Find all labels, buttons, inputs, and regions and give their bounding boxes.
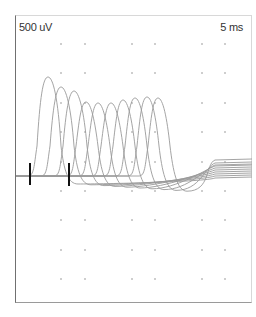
grid-dot (60, 102, 62, 104)
grid-dot (84, 72, 86, 74)
grid-dot (60, 43, 62, 45)
grid-dots (60, 43, 226, 280)
grid-dot (201, 102, 203, 104)
grid-dot (224, 72, 226, 74)
grid-dot (84, 249, 86, 251)
grid-dot (154, 278, 156, 280)
grid-dot (224, 190, 226, 192)
grid-dot (131, 43, 133, 45)
grid-dot (131, 249, 133, 251)
grid-dot (131, 190, 133, 192)
grid-dot (131, 131, 133, 133)
grid-dot (131, 278, 133, 280)
grid-dot (131, 161, 133, 163)
grid-dot (154, 131, 156, 133)
grid-dot (201, 131, 203, 133)
grid-dot (201, 43, 203, 45)
grid-dot (224, 219, 226, 221)
grid-dot (201, 249, 203, 251)
grid-dot (131, 219, 133, 221)
grid-dot (201, 190, 203, 192)
grid-dot (224, 131, 226, 133)
stimulus-markers (30, 163, 69, 186)
grid-dot (224, 249, 226, 251)
grid-dot (154, 43, 156, 45)
grid-dot (201, 161, 203, 163)
grid-dot (60, 249, 62, 251)
waveform-trace (16, 103, 252, 188)
waveform-traces (16, 77, 252, 191)
grid-dot (154, 190, 156, 192)
waveform-trace (16, 103, 252, 187)
grid-dot (224, 43, 226, 45)
waveform-plot (0, 0, 256, 317)
grid-dot (154, 219, 156, 221)
grid-dot (201, 72, 203, 74)
grid-dot (60, 278, 62, 280)
grid-dot (154, 72, 156, 74)
grid-dot (60, 72, 62, 74)
grid-dot (84, 278, 86, 280)
grid-dot (201, 278, 203, 280)
grid-dot (154, 161, 156, 163)
grid-dot (224, 102, 226, 104)
grid-dot (131, 72, 133, 74)
grid-dot (84, 43, 86, 45)
grid-dot (201, 219, 203, 221)
grid-dot (60, 190, 62, 192)
grid-dot (224, 278, 226, 280)
grid-dot (154, 249, 156, 251)
grid-dot (60, 219, 62, 221)
waveform-trace (16, 100, 252, 189)
grid-dot (84, 190, 86, 192)
grid-dot (84, 219, 86, 221)
waveform-trace (16, 98, 252, 191)
